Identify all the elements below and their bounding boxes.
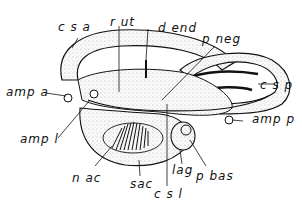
label-ampp: amp p [252,113,295,125]
label-sac: sac [130,178,153,190]
label-pneg: p neg [202,33,241,45]
label-pbas: p bas [196,170,234,182]
label-rut: r ut [110,16,135,28]
labyrinth-diagram: c s a r ut d end p neg c s p amp a amp l… [0,0,302,208]
label-csl: c s l [154,188,183,200]
ampulla-anterior [64,94,72,102]
ampulla-posterior [225,116,233,124]
label-csa: c s a [58,21,91,33]
label-ampl: amp l [20,133,59,145]
label-nac: n ac [72,172,101,184]
ampulla-lateral [90,90,98,98]
label-lag: lag [172,164,193,176]
label-dend: d end [158,22,197,34]
label-ampa: amp a [6,86,49,98]
utricle [78,69,232,115]
label-csp: c s p [260,79,293,91]
